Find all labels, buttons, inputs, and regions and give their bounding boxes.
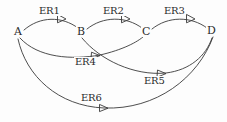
edge-er6 [18,37,213,108]
edge-label-er1[interactable]: ER1 [38,6,61,16]
edge-label-er6[interactable]: ER6 [80,93,103,103]
edge-er5 [82,38,212,73]
edge-label-er3[interactable]: ER3 [163,6,186,16]
edge-er3 [152,19,207,29]
edge-label-er2[interactable]: ER2 [102,6,125,16]
edge-er4 [20,36,144,57]
edge-er2 [87,19,142,29]
node-a[interactable]: A [13,26,23,37]
graph-diagram: A B C D ER1 ER2 ER3 ER4 ER5 ER6 [0,0,227,122]
node-d[interactable]: D [206,25,217,36]
graph-canvas [0,0,227,122]
edge-er1 [24,19,78,30]
edge-label-er5[interactable]: ER5 [143,76,166,86]
edge-label-er4[interactable]: ER4 [74,57,97,67]
node-b[interactable]: B [76,26,86,37]
node-c[interactable]: C [141,26,151,37]
